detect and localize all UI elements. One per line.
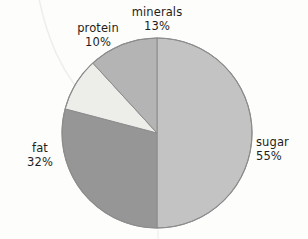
pie-slice-group <box>62 38 252 228</box>
slice-label-sugar-name: sugar <box>256 136 306 150</box>
pie-slice-sugar <box>157 38 252 228</box>
pie-chart-figure: minerals 13% protein 10% sugar 55% fat 3… <box>0 0 308 239</box>
slice-label-sugar: sugar 55% <box>256 136 306 163</box>
slice-label-protein-percent: 10% <box>60 36 136 50</box>
slice-label-fat-name: fat <box>14 142 66 156</box>
slice-label-fat: fat 32% <box>14 142 66 169</box>
slice-label-sugar-percent: 55% <box>256 150 306 164</box>
slice-label-fat-percent: 32% <box>14 156 66 170</box>
slice-label-protein: protein 10% <box>60 22 136 49</box>
slice-label-protein-name: protein <box>60 22 136 36</box>
pie-chart <box>0 0 308 239</box>
slice-label-minerals-name: minerals <box>118 6 196 20</box>
